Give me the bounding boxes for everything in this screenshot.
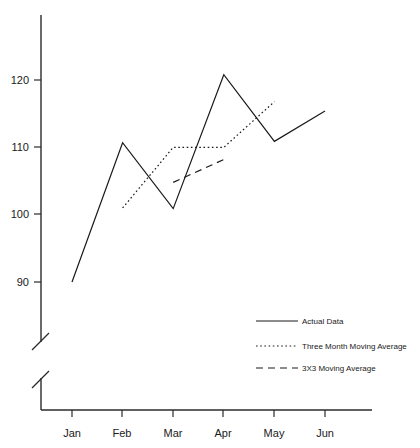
- x-tick-label-apr: Apr: [214, 427, 231, 439]
- legend-label-three-month-moving-average: Three Month Moving Average: [302, 342, 407, 351]
- y-tick-label-110: 110: [11, 141, 29, 153]
- x-tick-label-jan: Jan: [63, 427, 81, 439]
- y-tick-label-100: 100: [11, 208, 29, 220]
- legend-label-3x3-moving-average: 3X3 Moving Average: [302, 364, 376, 373]
- x-tick-label-mar: Mar: [164, 427, 183, 439]
- chart-background: [0, 0, 420, 448]
- x-tick-label-feb: Feb: [113, 427, 132, 439]
- y-tick-label-90: 90: [17, 276, 29, 288]
- x-tick-label-jun: Jun: [316, 427, 334, 439]
- legend-label-actual-data: Actual Data: [302, 317, 344, 326]
- y-tick-label-120: 120: [11, 74, 29, 86]
- chart-container: 120 110 100 90 Jan Feb Mar Apr May Jun A…: [0, 0, 420, 448]
- line-chart: 120 110 100 90 Jan Feb Mar Apr May Jun A…: [0, 0, 420, 448]
- x-tick-label-may: May: [264, 427, 285, 439]
